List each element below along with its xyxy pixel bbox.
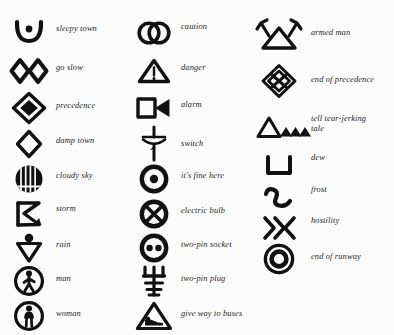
zigzag-bolt-icon: [6, 195, 52, 233]
legend-label: danger: [181, 63, 259, 73]
legend-label: woman: [56, 309, 134, 319]
switch-lever-icon: [131, 125, 177, 163]
legend-label: storm: [56, 204, 134, 214]
legend-label: rain: [56, 240, 134, 250]
legend-label: switch: [181, 139, 259, 149]
legend-label: dew: [311, 153, 394, 163]
concentric-ring-icon: [256, 240, 302, 278]
legend-label: man: [56, 274, 134, 284]
outline-diamond-icon: [6, 125, 52, 163]
legend-label: caution: [181, 22, 259, 32]
double-diamond-icon: [6, 52, 52, 90]
antlered-triangle-icon: [256, 14, 302, 52]
legend-label: tell tear-jerking tale: [311, 114, 394, 133]
interlocked-circles-icon: [131, 14, 177, 52]
legend-label: end of precedence: [311, 75, 394, 85]
legend-label: precedence: [56, 101, 134, 111]
legend-label: electric bulb: [181, 206, 259, 216]
legend-label: sleepy town: [56, 24, 134, 34]
legend-label: two-pin socket: [181, 240, 259, 250]
triangle-and-peaks-icon: [256, 108, 310, 146]
bowl-with-dot-icon: [6, 14, 52, 52]
legend-label: go slow: [56, 63, 134, 73]
circled-dot-icon: [131, 160, 177, 198]
trident-plug-icon: [131, 262, 177, 300]
striped-circle-icon: [6, 160, 52, 198]
square-bowtie-icon: [131, 89, 177, 127]
circled-woman-icon: [6, 297, 52, 335]
symbol-legend-sheet: sleepy town go slow precedence: [0, 0, 394, 335]
circled-cross-icon: [131, 195, 177, 233]
legend-label: alarm: [181, 100, 259, 110]
triangle-exclamation-icon: [131, 52, 177, 90]
circled-walking-man-icon: [6, 262, 52, 300]
legend-label: armed man: [311, 28, 394, 38]
legend-label: damp town: [56, 136, 134, 146]
legend-label: it's fine here: [181, 171, 259, 181]
diamond-in-diamond-icon: [6, 89, 52, 127]
triangle-bus-icon: [131, 297, 177, 335]
legend-label: give way to buses: [181, 309, 259, 319]
legend-label: cloudy sky: [56, 171, 134, 181]
legend-label: frost: [311, 185, 394, 195]
legend-label: hostility: [311, 216, 394, 226]
legend-label: end of runway: [311, 252, 394, 262]
knotted-diamond-icon: [256, 62, 302, 100]
legend-label: two-pin plug: [181, 274, 259, 284]
